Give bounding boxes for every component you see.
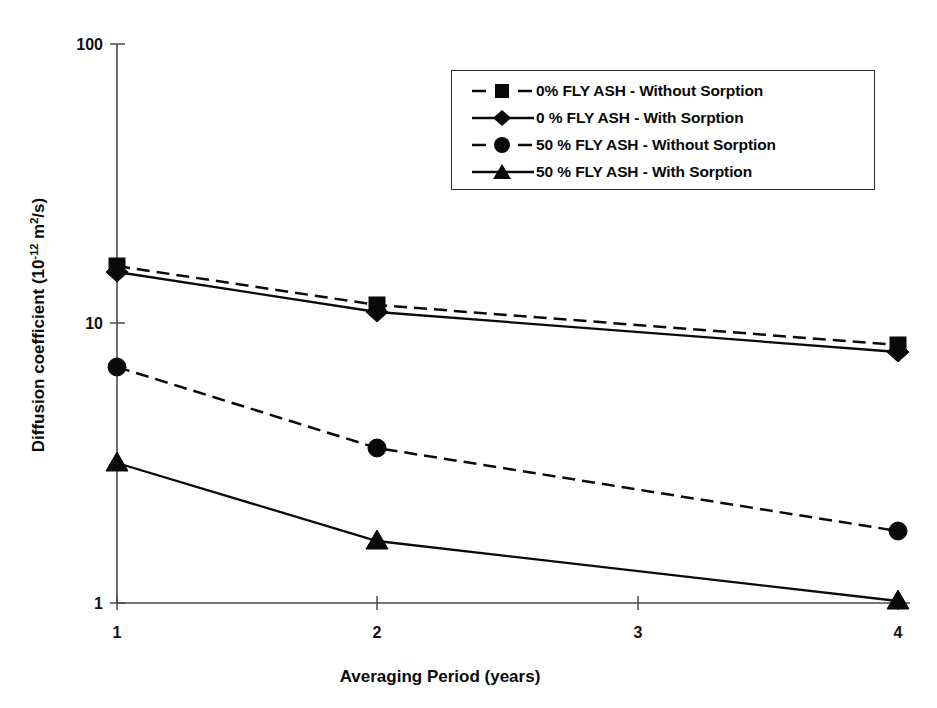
x-tick-label-2: 2 — [373, 624, 382, 641]
x-tick-label-4: 4 — [894, 624, 903, 641]
marker-triangle — [106, 452, 128, 471]
series-50pct-with-sorption — [106, 452, 909, 609]
legend-swatch-diamond-solid — [470, 108, 536, 128]
y-tick-label-10: 10 — [85, 315, 103, 332]
legend-label: 0 % FLY ASH - With Sorption — [536, 109, 744, 127]
x-tick-label-1: 1 — [113, 624, 122, 641]
y-tick-label-100: 100 — [76, 36, 103, 53]
y-axis-title-mid: m — [29, 224, 48, 244]
legend-item: 50 % FLY ASH - With Sorption — [452, 158, 874, 185]
marker-circle — [108, 358, 126, 376]
series-50pct-without-sorption — [108, 358, 907, 540]
y-tick-label-1: 1 — [94, 595, 103, 612]
svg-text:Diffusion coefficient (10-12 m: Diffusion coefficient (10-12 m2/s) — [28, 198, 48, 452]
y-axis-title: Diffusion coefficient (10-12 m2/s) — [28, 198, 48, 452]
series-line — [117, 463, 898, 601]
x-tick-label-3: 3 — [634, 624, 643, 641]
legend-item: 0% FLY ASH - Without Sorption — [452, 77, 874, 104]
legend-item: 0 % FLY ASH - With Sorption — [452, 104, 874, 131]
x-axis-title: Averaging Period (years) — [340, 667, 541, 686]
y-axis-title-base: Diffusion coefficient (10 — [29, 260, 48, 453]
legend-label: 0% FLY ASH - Without Sorption — [536, 82, 763, 100]
chart-page: 100 10 1 1 2 3 4 Averaging Period (years… — [0, 0, 937, 708]
legend-label: 50 % FLY ASH - Without Sorption — [536, 136, 776, 154]
series-line — [117, 367, 898, 531]
series-0pct-with-sorption — [106, 262, 909, 362]
diffusion-coefficient-chart: 100 10 1 1 2 3 4 Averaging Period (years… — [0, 0, 937, 708]
marker-circle — [889, 522, 907, 540]
marker-circle — [368, 439, 386, 457]
series-line — [117, 266, 898, 345]
legend-item: 50 % FLY ASH - Without Sorption — [452, 131, 874, 158]
legend-swatch-circle-dashed — [470, 135, 536, 155]
legend-swatch-triangle-solid — [470, 162, 536, 182]
series-0pct-without-sorption — [109, 258, 906, 353]
chart-legend: 0% FLY ASH - Without Sorption 0 % FLY AS… — [451, 70, 875, 190]
series-line — [117, 272, 898, 352]
legend-swatch-square-dashed — [470, 81, 536, 101]
y-axis-title-tail: /s) — [29, 198, 48, 218]
y-axis-title-exp: -12 — [28, 244, 40, 260]
legend-label: 50 % FLY ASH - With Sorption — [536, 163, 752, 181]
